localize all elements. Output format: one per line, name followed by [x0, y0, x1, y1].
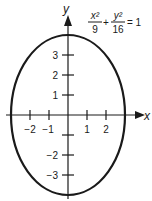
y-tick-label: −2	[47, 150, 59, 161]
equation-term1-numerator: x²	[90, 10, 100, 21]
equation: x² 9 + y² 16 = 1	[88, 10, 142, 35]
equation-term2-numerator: y²	[113, 10, 123, 21]
equation-term1-denominator: 9	[92, 24, 98, 35]
x-tick-label: −2	[24, 124, 36, 135]
equation-term2-denominator: 16	[112, 24, 124, 35]
y-tick-label: 1	[52, 90, 58, 101]
x-tick-label: 2	[103, 124, 109, 135]
ellipse-diagram: y x −2 −1 1 2 3 2 1 −2 −3 x² 9 + y² 16 =…	[0, 0, 152, 201]
x-tick-label: 1	[84, 124, 90, 135]
equation-rhs: = 1	[127, 17, 142, 28]
y-tick-label: 3	[52, 50, 58, 61]
y-tick-label: 2	[52, 70, 58, 81]
equation-plus: +	[103, 17, 109, 28]
y-axis-arrow-icon	[64, 15, 72, 26]
x-axis-label: x	[143, 109, 151, 123]
x-tick-label: −1	[42, 124, 54, 135]
y-tick-label: −3	[47, 170, 59, 181]
y-axis-label: y	[62, 2, 70, 16]
